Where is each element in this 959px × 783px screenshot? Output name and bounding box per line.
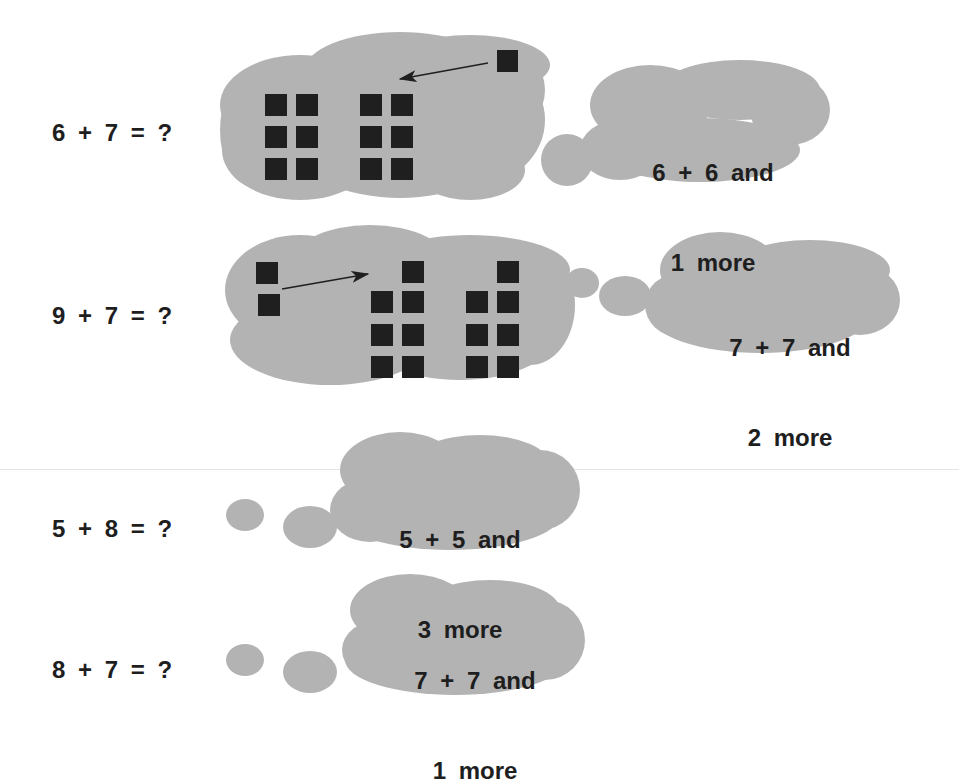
thought-connector-4 xyxy=(226,644,337,693)
strategy-line-2: 2 more xyxy=(695,423,885,453)
thought-connector-3 xyxy=(226,499,337,548)
strategy-text-4: 7 + 7 and 1 more xyxy=(385,606,565,783)
strategy-line-1: 5 + 5 and xyxy=(370,525,550,555)
strategy-line-1: 7 + 7 and xyxy=(385,666,565,696)
strategy-line-1: 6 + 6 and xyxy=(628,158,798,188)
equation-2: 9 + 7 = ? xyxy=(52,302,172,330)
strategy-text-2: 7 + 7 and 2 more xyxy=(695,273,885,513)
moving-block-1 xyxy=(497,50,518,72)
equation-1: 6 + 7 = ? xyxy=(52,119,172,147)
strategy-line-1: 7 + 7 and xyxy=(695,333,885,363)
equation-3: 5 + 8 = ? xyxy=(52,515,172,543)
strategy-line-2: 1 more xyxy=(385,756,565,783)
equation-4: 8 + 7 = ? xyxy=(52,656,172,684)
